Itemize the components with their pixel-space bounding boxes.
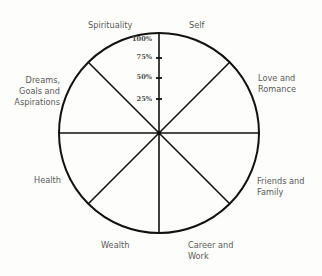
segment-label-dreams-goals-aspirations: Dreams, Goals and Aspirations xyxy=(10,75,60,108)
label-line: Career and xyxy=(188,240,233,251)
wheel-center-dot xyxy=(157,131,161,135)
label-line: Family xyxy=(257,187,304,198)
label-line: Dreams, xyxy=(10,75,60,86)
segment-label-love-and-romance: Love and Romance xyxy=(258,73,296,95)
label-line: Goals and xyxy=(10,86,60,97)
segment-label-career-and-work: Career and Work xyxy=(188,240,233,262)
segment-label-health: Health xyxy=(34,175,61,186)
segment-label-wealth: Wealth xyxy=(101,240,129,251)
scale-label-25: 25% xyxy=(122,95,152,103)
segment-label-friends-and-family: Friends and Family xyxy=(257,176,304,198)
label-line: Aspirations xyxy=(10,97,60,108)
scale-label-100: 100% xyxy=(122,35,152,43)
label-line: Romance xyxy=(258,84,296,95)
label-line: Work xyxy=(188,251,233,262)
wheel-of-life-diagram xyxy=(0,0,322,276)
scale-label-75: 75% xyxy=(122,53,152,61)
segment-label-spirituality: Spirituality xyxy=(88,20,132,31)
scale-label-50: 50% xyxy=(122,73,152,81)
label-line: Friends and xyxy=(257,176,304,187)
label-line: Love and xyxy=(258,73,296,84)
segment-label-self: Self xyxy=(189,20,204,31)
